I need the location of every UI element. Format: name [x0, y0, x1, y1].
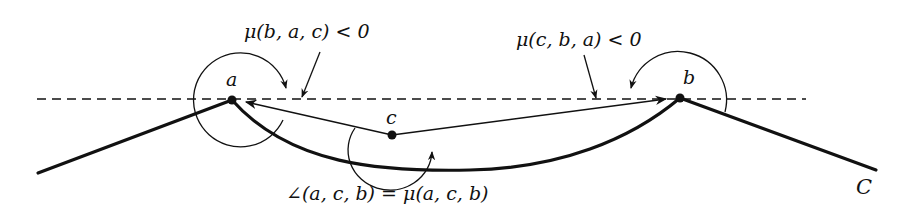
- label-b: b: [683, 66, 695, 88]
- label-pointers: [302, 52, 596, 98]
- curve-C: [38, 98, 876, 173]
- annotation-angle-acb: ∠(a, c, b) = μ(a, c, b): [286, 182, 489, 204]
- label-curve-C: C: [856, 175, 872, 199]
- label-c: c: [386, 106, 397, 128]
- vertex-c: [388, 131, 397, 140]
- annotation-mu-bac: μ(b, a, c) < 0: [244, 20, 370, 42]
- annotation-mu-cba: μ(c, b, a) < 0: [516, 28, 642, 50]
- label-a: a: [226, 68, 237, 90]
- vertex-a: [228, 96, 237, 105]
- diagram-canvas: a b c C μ(b, a, c) < 0 μ(c, b, a) < 0 ∠(…: [0, 0, 910, 214]
- vectors-from-c: [246, 99, 666, 135]
- vertex-b: [676, 94, 685, 103]
- angle-arc-b: [631, 51, 727, 112]
